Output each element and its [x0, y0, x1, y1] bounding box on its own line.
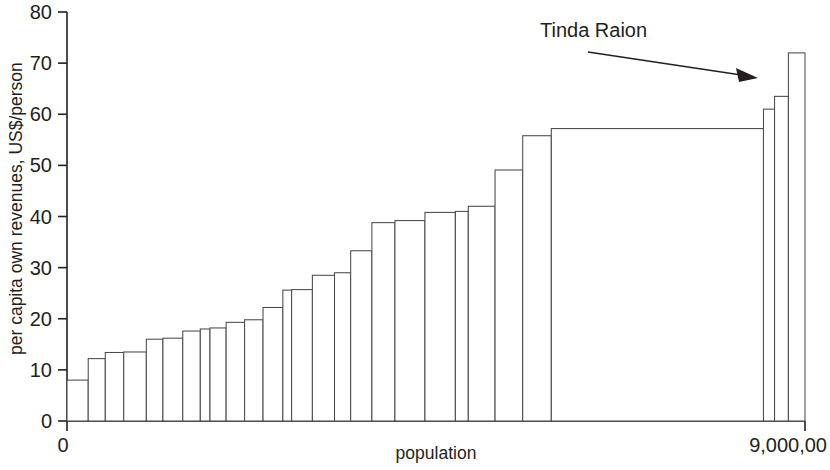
bar: [183, 331, 201, 421]
bar: [395, 221, 425, 421]
bar: [146, 339, 163, 421]
bar: [455, 211, 468, 421]
y-axis-ticks: 01020304050607080: [30, 1, 67, 432]
bar: [763, 109, 774, 421]
y-tick-label: 40: [30, 206, 52, 228]
chart-container: 01020304050607080 09,000,00 per capita o…: [0, 0, 830, 470]
bar: [312, 275, 334, 421]
x-tick-label: 9,000,00: [749, 434, 827, 456]
bar: [226, 322, 244, 421]
annotation-arrow-head: [736, 68, 758, 82]
bar: [495, 170, 523, 421]
bar: [335, 273, 351, 421]
bar: [263, 308, 283, 422]
bar: [468, 206, 495, 421]
annotation-label: Tinda Raion: [540, 19, 647, 41]
bar: [425, 212, 455, 421]
bar: [292, 290, 313, 421]
bar: [523, 136, 552, 421]
bar: [124, 352, 147, 421]
bar: [210, 328, 226, 421]
y-tick-label: 70: [30, 52, 52, 74]
annotation-arrow-line: [588, 52, 748, 76]
annotation-tinda-raion: Tinda Raion: [540, 19, 758, 82]
bar: [788, 53, 805, 421]
y-tick-label: 0: [41, 410, 52, 432]
bar: [551, 129, 763, 421]
y-tick-label: 20: [30, 308, 52, 330]
bar: [163, 338, 183, 421]
y-tick-label: 10: [30, 359, 52, 381]
x-axis-title: population: [396, 443, 477, 463]
bars-group: [67, 53, 805, 421]
y-tick-label: 80: [30, 1, 52, 23]
bar: [372, 223, 395, 421]
bar: [88, 359, 105, 421]
bar: [105, 352, 123, 421]
y-tick-label: 60: [30, 103, 52, 125]
bar: [351, 251, 372, 421]
y-tick-label: 50: [30, 154, 52, 176]
y-tick-label: 30: [30, 257, 52, 279]
y-axis-title: per capita own revenues, US$/person: [6, 62, 26, 355]
x-tick-label: 0: [57, 434, 68, 456]
bar: [200, 329, 210, 421]
bar: [67, 380, 88, 421]
bar: [283, 290, 292, 421]
bar: [245, 320, 263, 421]
bar-chart: 01020304050607080 09,000,00 per capita o…: [0, 0, 830, 470]
bar: [775, 96, 789, 421]
